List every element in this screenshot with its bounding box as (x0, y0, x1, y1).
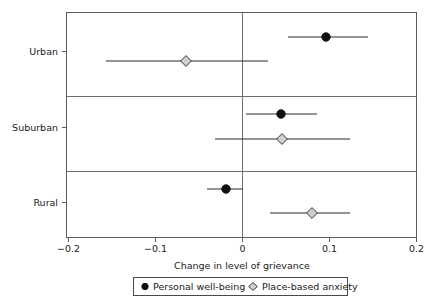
filled-circle-marker (222, 185, 230, 193)
datapoint-urban-personal-well-being[interactable] (288, 33, 368, 41)
xtick-label-0: −0.2 (57, 243, 80, 254)
ytick-label-suburban: Suburban (12, 122, 58, 133)
legend-item-personal-well-being[interactable]: Personal well-being (142, 281, 245, 292)
legend-label-1: Place-based anxiety (262, 281, 358, 292)
plot-frame (67, 13, 417, 238)
datapoint-suburban-place-based-anxiety[interactable] (215, 134, 350, 145)
filled-circle-marker (322, 33, 330, 41)
open-diamond-marker (181, 56, 192, 67)
legend-label-0: Personal well-being (153, 281, 245, 292)
legend-item-place-based-anxiety[interactable]: Place-based anxiety (249, 281, 358, 292)
datapoint-rural-place-based-anxiety[interactable] (270, 208, 350, 219)
chart-root: Urban Suburban Rural −0.2 −0.1 0 0.1 0.2… (0, 0, 437, 306)
datapoint-rural-personal-well-being[interactable] (207, 185, 243, 193)
xtick-label-4: 0.2 (409, 243, 424, 254)
open-diamond-marker (307, 208, 318, 219)
ytick-label-rural: Rural (33, 197, 58, 208)
filled-circle-icon (142, 283, 148, 289)
xtick-label-3: 0.1 (322, 243, 337, 254)
datapoint-urban-place-based-anxiety[interactable] (106, 56, 268, 67)
legend: Personal well-being Place-based anxiety (134, 278, 359, 296)
datapoint-suburban-personal-well-being[interactable] (246, 110, 317, 118)
xtick-label-1: −0.1 (144, 243, 167, 254)
ytick-label-urban: Urban (29, 46, 58, 57)
xtick-label-2: 0 (239, 243, 245, 254)
x-axis-title: Change in level of grievance (174, 260, 310, 271)
open-diamond-marker (277, 134, 288, 145)
forest-plot: Urban Suburban Rural −0.2 −0.1 0 0.1 0.2… (0, 0, 437, 306)
filled-circle-marker (277, 110, 285, 118)
